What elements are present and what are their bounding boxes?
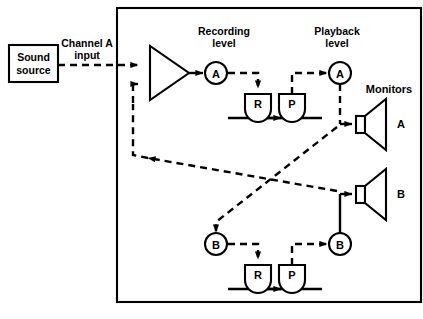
amplifier-triangle (150, 46, 189, 100)
monitor-a-magnet (356, 116, 365, 133)
recording-level-node-b-label: B (212, 239, 220, 251)
playback-level-node-b-label: B (336, 239, 344, 251)
record-head-b-label: R (254, 269, 262, 281)
monitor-a-cone (365, 99, 386, 150)
monitors-label: Monitors (366, 83, 412, 95)
crossfeed-wire-b-to-amp-tail (133, 104, 148, 158)
playback-level-label-line2: level (325, 37, 348, 49)
playback-head-b-label: P (288, 269, 295, 281)
playback-signal-wire-b (292, 244, 327, 265)
channel-a-input-label-line1: Channel A (61, 37, 113, 49)
channel-a-input-label-line2: input (74, 49, 100, 61)
playback-head-a-label: P (288, 98, 295, 110)
record-head-a-label: R (254, 98, 262, 110)
sound-source-label-line2: source (16, 64, 51, 76)
recording-level-label-line2: level (212, 37, 235, 49)
recorder-enclosure (117, 8, 421, 302)
monitor-b-magnet (356, 186, 365, 203)
playback-level-label-line1: Playback (314, 25, 360, 37)
crossfeed-wire-b-to-amp (148, 158, 337, 191)
diagram-canvas: Sound source Channel A input Recording l… (0, 0, 423, 319)
playback-signal-wire-a (292, 73, 327, 94)
recording-level-label-line1: Recording (198, 25, 250, 37)
monitor-b-cone (365, 169, 386, 220)
sound-source-label-line1: Sound (17, 51, 50, 63)
playback-level-node-a-label: A (336, 68, 344, 80)
record-signal-wire-b (228, 244, 258, 259)
monitor-b-label: B (397, 188, 405, 200)
recording-level-node-a-label: A (212, 68, 220, 80)
record-signal-wire-a (228, 73, 258, 88)
monitor-a-label: A (397, 118, 405, 130)
